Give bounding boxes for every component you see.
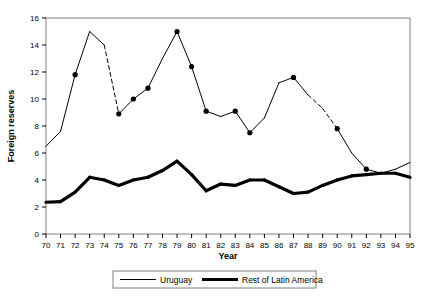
x-tick-label: 70 <box>42 241 51 250</box>
x-tick-label: 76 <box>129 241 138 250</box>
x-tick-label: 94 <box>391 241 400 250</box>
x-tick-label: 79 <box>173 241 182 250</box>
chart-figure: 0246810121416 70717273747576777879808182… <box>0 0 425 298</box>
x-tick-label: 80 <box>187 241 196 250</box>
series-segment-thick <box>294 192 309 193</box>
x-tick-label: 89 <box>318 241 327 250</box>
legend-label-uruguay: Uruguay <box>160 275 193 285</box>
x-tick-label: 74 <box>100 241 109 250</box>
x-tick-label: 87 <box>289 241 298 250</box>
series-segment-thick <box>352 175 367 176</box>
x-tick-label: 90 <box>333 241 342 250</box>
data-point-marker <box>174 29 179 34</box>
x-tick-label: 71 <box>56 241 65 250</box>
data-point-marker <box>73 72 78 77</box>
data-point-marker <box>116 111 121 116</box>
y-tick-label: 2 <box>35 203 40 212</box>
y-tick-label: 12 <box>30 68 39 77</box>
x-tick-label: 91 <box>347 241 356 250</box>
x-tick-label: 95 <box>406 241 415 250</box>
series-segment-thick <box>46 202 61 203</box>
x-tick-label: 92 <box>362 241 371 250</box>
y-tick-label: 6 <box>35 149 40 158</box>
x-tick-label: 93 <box>376 241 385 250</box>
x-tick-label: 88 <box>304 241 313 250</box>
data-point-marker <box>233 109 238 114</box>
chart-background <box>0 0 425 298</box>
series-segment-thick <box>366 173 381 174</box>
y-tick-label: 16 <box>30 14 39 23</box>
legend-label-rest-of-latin-america: Rest of Latin America <box>242 275 323 285</box>
series-segment-thick <box>221 184 236 185</box>
x-tick-label: 85 <box>260 241 269 250</box>
y-tick-label: 10 <box>30 95 39 104</box>
y-axis-title: Foreign reserves <box>6 90 16 163</box>
x-tick-label: 81 <box>202 241 211 250</box>
x-tick-label: 86 <box>275 241 284 250</box>
data-point-marker <box>335 126 340 131</box>
data-point-marker <box>291 75 296 80</box>
x-axis-title: Year <box>218 251 238 261</box>
y-tick-label: 14 <box>30 41 39 50</box>
data-point-marker <box>247 130 252 135</box>
x-tick-label: 84 <box>245 241 254 250</box>
data-point-marker <box>204 109 209 114</box>
x-tick-label: 82 <box>216 241 225 250</box>
y-tick-label: 8 <box>35 122 40 131</box>
data-point-marker <box>364 167 369 172</box>
x-tick-label: 72 <box>71 241 80 250</box>
data-point-marker <box>131 96 136 101</box>
y-tick-label: 0 <box>35 230 40 239</box>
data-point-marker <box>189 64 194 69</box>
x-tick-label: 83 <box>231 241 240 250</box>
data-point-marker <box>145 86 150 91</box>
x-tick-label: 77 <box>143 241 152 250</box>
x-tick-label: 73 <box>85 241 94 250</box>
x-tick-label: 78 <box>158 241 167 250</box>
chart-legend: Uruguay Rest of Latin America <box>113 271 323 288</box>
y-tick-label: 4 <box>35 176 40 185</box>
foreign-reserves-line-chart: 0246810121416 70717273747576777879808182… <box>0 0 425 298</box>
x-tick-label: 75 <box>114 241 123 250</box>
